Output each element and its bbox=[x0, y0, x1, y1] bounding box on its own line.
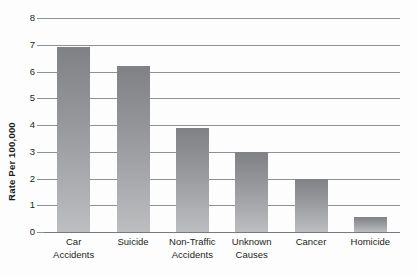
gridline bbox=[44, 45, 400, 46]
y-axis-tick bbox=[37, 152, 44, 153]
y-axis-tick-label: 3 bbox=[30, 147, 35, 157]
x-axis-category-label-line: Causes bbox=[222, 249, 281, 262]
x-axis-category-label: UnknownCauses bbox=[222, 236, 281, 261]
y-axis-tick-label: 6 bbox=[30, 67, 35, 77]
bar bbox=[117, 66, 150, 232]
x-axis-category-label: Suicide bbox=[103, 236, 162, 249]
gridline bbox=[44, 72, 400, 73]
x-axis-category-label: Non-TrafficAccidents bbox=[163, 236, 222, 261]
x-axis-category-label: CarAccidents bbox=[44, 236, 103, 261]
x-axis-category-label-line: Non-Traffic bbox=[163, 236, 222, 249]
x-axis-category-labels: CarAccidentsSuicideNon-TrafficAccidentsU… bbox=[44, 236, 400, 276]
bar bbox=[235, 152, 268, 232]
y-axis-title: Rate Per 100,000 bbox=[0, 0, 22, 277]
x-axis-baseline bbox=[44, 232, 400, 233]
x-axis-category-label: Cancer bbox=[281, 236, 340, 249]
y-axis-tick-label: 8 bbox=[30, 13, 35, 23]
bar bbox=[295, 179, 328, 233]
gridline bbox=[44, 98, 400, 99]
gridline bbox=[44, 125, 400, 126]
x-axis-category-label-line: Suicide bbox=[103, 236, 162, 249]
y-axis-tick-label: 1 bbox=[30, 201, 35, 211]
bar-chart: Rate Per 100,000 876543210 CarAccidentsS… bbox=[0, 0, 417, 277]
y-axis-tick bbox=[37, 98, 44, 99]
y-axis-tick-label: 2 bbox=[30, 174, 35, 184]
y-axis-tick bbox=[37, 205, 44, 206]
y-axis-tick bbox=[37, 45, 44, 46]
plot-area: 876543210 bbox=[44, 18, 400, 232]
y-axis-tick-label: 7 bbox=[30, 40, 35, 50]
x-axis-category-label: Homicide bbox=[341, 236, 400, 249]
gridline bbox=[44, 152, 400, 153]
x-axis-category-label-line: Homicide bbox=[341, 236, 400, 249]
x-axis-category-label-line: Accidents bbox=[44, 249, 103, 262]
gridline bbox=[44, 205, 400, 206]
x-axis-category-label-line: Accidents bbox=[163, 249, 222, 262]
bar bbox=[176, 128, 209, 232]
y-axis-tick bbox=[37, 125, 44, 126]
x-axis-category-label-line: Unknown bbox=[222, 236, 281, 249]
gridline bbox=[44, 18, 400, 19]
y-axis-tick bbox=[37, 179, 44, 180]
y-axis-tick bbox=[37, 72, 44, 73]
bar bbox=[57, 47, 90, 232]
x-axis-category-label-line: Car bbox=[44, 236, 103, 249]
bar bbox=[354, 217, 387, 232]
y-axis-tick bbox=[37, 232, 44, 233]
gridline bbox=[44, 179, 400, 180]
y-axis-tick bbox=[37, 18, 44, 19]
x-axis-category-label-line: Cancer bbox=[281, 236, 340, 249]
y-axis-tick-label: 5 bbox=[30, 94, 35, 104]
y-axis-tick-label: 4 bbox=[30, 120, 35, 130]
y-axis-tick-label: 0 bbox=[30, 227, 35, 237]
